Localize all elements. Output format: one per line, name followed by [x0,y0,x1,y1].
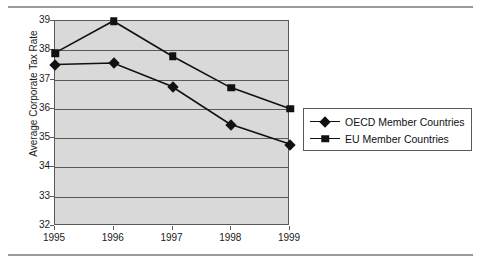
series-line [55,63,288,143]
x-tick-mark [172,226,173,230]
y-tick-label: 36 [28,103,50,113]
x-tick-mark [113,226,114,230]
y-tick-label: 35 [28,132,50,142]
square-marker [286,105,294,113]
legend-label-oecd: OECD Member Countries [340,116,465,128]
x-tick-label: 1995 [34,232,74,243]
plot-area [54,20,289,225]
x-tick-mark [289,226,290,230]
x-tick-label: 1998 [210,232,250,243]
square-marker [169,52,177,60]
y-axis-ticks: 3233343536373839 [26,20,50,225]
x-tick-mark [230,226,231,230]
chart-legend: OECD Member Countries EU Member Countrie… [303,108,472,151]
y-tick-label: 37 [28,74,50,84]
x-tick-mark [54,226,55,230]
x-tick-label: 1999 [269,232,309,243]
y-tick-label: 39 [28,15,50,25]
square-marker [110,17,118,25]
square-marker-icon [310,132,340,146]
y-tick-label: 32 [28,220,50,230]
series-line [55,21,288,108]
legend-entry-eu: EU Member Countries [310,130,471,147]
x-tick-label: 1997 [152,232,192,243]
bottom-divider-rule [8,254,473,256]
square-marker [228,84,236,92]
x-tick-label: 1996 [93,232,133,243]
chart-figure: Average Corporate Tax Rate 3233343536373… [0,0,481,265]
legend-label-eu: EU Member Countries [340,133,449,145]
diamond-marker-icon [310,115,340,129]
y-tick-label: 34 [28,161,50,171]
y-tick-label: 33 [28,191,50,201]
square-marker [51,49,59,57]
y-tick-label: 38 [28,44,50,54]
top-divider-rule [8,6,473,8]
legend-entry-oecd: OECD Member Countries [310,113,471,130]
